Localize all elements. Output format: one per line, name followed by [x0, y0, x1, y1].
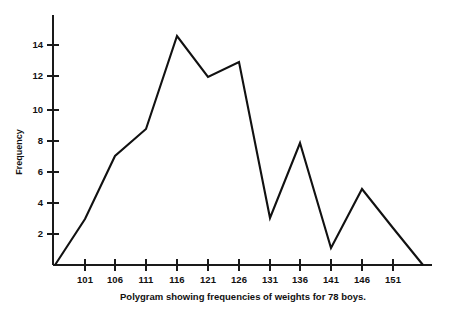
y-tick-label-8: 8: [38, 135, 43, 146]
frequency-polygon-chart: 2 4 6 8 10 12 14 101 106 111 11: [0, 0, 456, 309]
x-tick-label-141: 141: [323, 274, 340, 285]
chart-figure: 2 4 6 8 10 12 14 101 106 111 11: [0, 0, 456, 309]
y-tick-label-10: 10: [32, 104, 43, 115]
x-tick-label-101: 101: [77, 274, 94, 285]
y-tick-label-2: 2: [38, 228, 43, 239]
y-axis-title: Frequency: [14, 129, 24, 175]
y-tick-label-12: 12: [32, 70, 43, 81]
chart-caption: Polygram showing frequencies of weights …: [120, 291, 366, 302]
x-tick-labels: 101 106 111 116 121 126 131 136 141 146 …: [77, 274, 402, 285]
x-tick-label-146: 146: [354, 274, 370, 285]
x-tick-label-136: 136: [292, 274, 308, 285]
x-tick-label-151: 151: [385, 274, 402, 285]
x-tick-label-116: 116: [169, 274, 184, 285]
y-tick-labels: 2 4 6 8 10 12 14: [32, 39, 43, 239]
y-tick-label-4: 4: [38, 197, 44, 208]
frequency-polygon-line: [55, 36, 423, 265]
y-tick-label-14: 14: [32, 39, 43, 50]
x-tick-label-126: 126: [231, 274, 247, 285]
x-tick-label-131: 131: [262, 274, 279, 285]
x-tick-label-111: 111: [139, 274, 155, 285]
x-tick-label-106: 106: [107, 274, 123, 285]
x-tick-label-121: 121: [200, 274, 217, 285]
y-tick-label-6: 6: [38, 166, 43, 177]
